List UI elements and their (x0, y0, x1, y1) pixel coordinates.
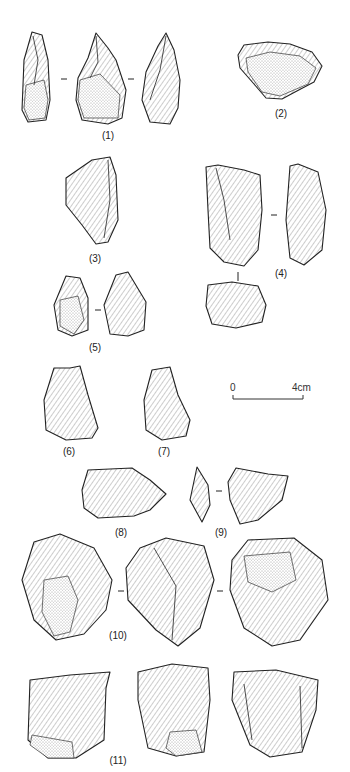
artefact-5 (54, 272, 146, 336)
label-artefact-8: (8) (115, 527, 127, 538)
label-artefact-9: (9) (215, 527, 227, 538)
scale-end-label: 4cm (292, 382, 311, 393)
artefact-11 (28, 664, 318, 758)
artefact-8 (82, 468, 166, 518)
artefact-4 (206, 164, 326, 328)
label-artefact-1: (1) (102, 130, 114, 141)
label-artefact-7: (7) (158, 446, 170, 457)
artefact-9 (190, 467, 288, 524)
artefact-1 (22, 32, 180, 124)
label-artefact-5: (5) (89, 342, 101, 353)
label-artefact-6: (6) (63, 446, 75, 457)
artefact-7 (144, 367, 190, 440)
label-artefact-11: (11) (109, 755, 126, 766)
artefact-3 (66, 157, 118, 244)
label-artefact-2: (2) (275, 108, 287, 119)
label-artefact-4: (4) (275, 268, 287, 279)
artefact-10 (22, 534, 328, 646)
artefact-2 (238, 42, 322, 99)
label-artefact-10: (10) (109, 630, 127, 641)
artefact-6 (44, 366, 98, 440)
label-artefact-3: (3) (89, 253, 101, 264)
scale-bar (233, 395, 303, 399)
scale-start-label: 0 (230, 382, 236, 393)
